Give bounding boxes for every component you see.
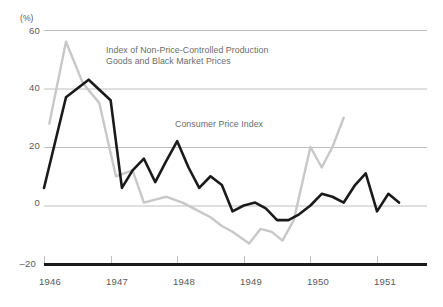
x-axis-ticks-group <box>45 256 378 263</box>
chart-container: (%) 60 40 20 0 –20 1946 1947 1948 1949 1… <box>0 0 443 307</box>
data-series-group <box>44 42 399 244</box>
gridlines-group <box>44 31 427 207</box>
chart-plot-area <box>0 0 443 307</box>
